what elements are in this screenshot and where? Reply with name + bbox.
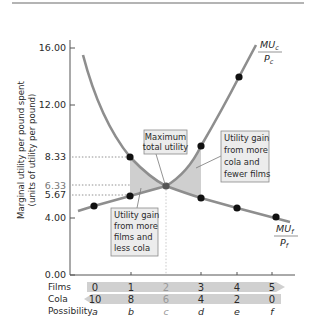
svg-text:total utility: total utility <box>143 142 189 152</box>
svg-text:from more: from more <box>114 221 158 231</box>
svg-text:1: 1 <box>128 282 134 293</box>
svg-text:Films: Films <box>48 282 71 292</box>
svg-text:from more: from more <box>224 145 268 155</box>
label-mu-films: MUf Pf <box>274 223 298 250</box>
svg-text:f: f <box>270 306 275 317</box>
svg-text:12.00: 12.00 <box>39 99 66 110</box>
annotation-gain-cola: Utility gain from more cola and fewer fi… <box>221 131 270 182</box>
films-band <box>87 282 285 292</box>
svg-text:MUf: MUf <box>276 223 295 236</box>
svg-text:10: 10 <box>89 294 102 305</box>
svg-text:5.67: 5.67 <box>45 189 66 200</box>
svg-text:6: 6 <box>163 294 169 305</box>
svg-text:0: 0 <box>92 282 98 293</box>
svg-text:Utility gain: Utility gain <box>224 133 269 143</box>
svg-text:fewer films: fewer films <box>224 169 270 179</box>
svg-text:cola and: cola and <box>224 157 260 167</box>
svg-text:2: 2 <box>163 282 169 293</box>
svg-text:b: b <box>128 306 134 317</box>
point-f <box>272 213 279 220</box>
cola-band <box>84 294 281 304</box>
chart: Marginal utility per pound spent (units … <box>0 0 318 330</box>
svg-text:3: 3 <box>198 282 204 293</box>
svg-text:films and: films and <box>114 232 153 242</box>
svg-text:5: 5 <box>269 282 275 293</box>
svg-text:Marginal utility per pound spe: Marginal utility per pound spent <box>16 81 26 219</box>
svg-text:0: 0 <box>269 294 275 305</box>
svg-text:Pf: Pf <box>280 237 290 250</box>
annotation-gain-films: Utility gain from more films and less co… <box>111 208 159 256</box>
svg-text:4.00: 4.00 <box>45 212 66 223</box>
svg-text:d: d <box>198 306 205 317</box>
svg-text:8.33: 8.33 <box>45 151 66 162</box>
svg-text:Maximum: Maximum <box>145 132 186 142</box>
svg-text:Pc: Pc <box>264 53 274 66</box>
svg-text:Cola: Cola <box>48 294 68 304</box>
svg-text:16.00: 16.00 <box>39 42 66 53</box>
label-mu-cola: MUc Pc <box>258 39 282 66</box>
svg-text:8: 8 <box>128 294 134 305</box>
annotation-max-total-utility: Maximum total utility <box>143 130 189 154</box>
svg-text:(units of utility per pound): (units of utility per pound) <box>27 94 37 207</box>
svg-text:2: 2 <box>234 294 240 305</box>
svg-text:Possibility: Possibility <box>48 306 93 316</box>
svg-text:Utility gain: Utility gain <box>114 210 159 220</box>
svg-text:a: a <box>92 306 98 317</box>
svg-text:c: c <box>163 306 169 317</box>
svg-text:4: 4 <box>198 294 204 305</box>
svg-text:4: 4 <box>234 282 240 293</box>
svg-text:MUc: MUc <box>260 39 279 52</box>
svg-text:e: e <box>234 306 240 317</box>
possibility-values: a b c d e f <box>92 306 275 317</box>
y-axis-label: Marginal utility per pound spent (units … <box>16 81 37 219</box>
svg-text:0.00: 0.00 <box>45 269 66 280</box>
svg-text:less cola: less cola <box>114 243 150 253</box>
